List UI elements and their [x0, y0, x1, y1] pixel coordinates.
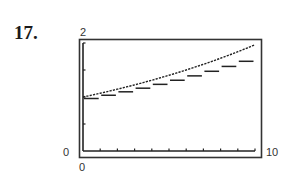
axes	[83, 43, 255, 151]
window-frame	[80, 40, 262, 158]
graph-window	[0, 0, 294, 184]
plot-series	[83, 45, 255, 99]
continuous-curve	[83, 45, 255, 97]
